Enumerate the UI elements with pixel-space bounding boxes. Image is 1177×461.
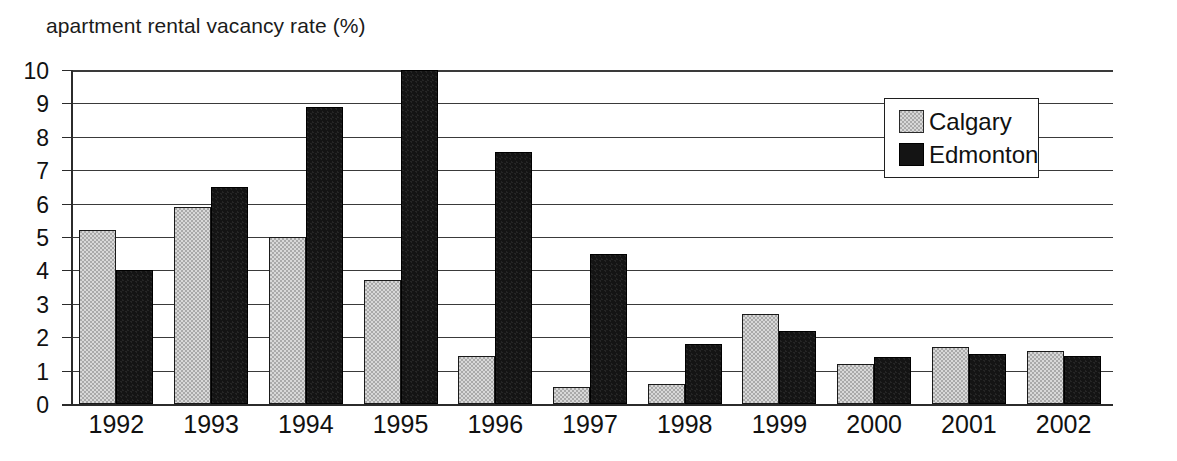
bar-calgary-1999 — [742, 314, 779, 404]
y-tick-label-0: 0 — [36, 394, 49, 417]
bar-calgary-2002 — [1027, 351, 1064, 404]
edmonton-swatch-icon — [899, 143, 924, 166]
bar-edmonton-1999 — [779, 331, 816, 404]
y-tick-label-5: 5 — [36, 227, 49, 250]
x-tick-label-1992: 1992 — [89, 412, 145, 437]
bar-edmonton-1995 — [401, 70, 438, 404]
bar-calgary-1997 — [553, 387, 590, 404]
x-tick-label-1996: 1996 — [467, 412, 523, 437]
y-tick-3: 3 — [62, 304, 71, 305]
vacancy-rate-bar-chart: apartment rental vacancy rate (%) 012345… — [0, 0, 1177, 461]
y-tick-label-8: 8 — [36, 126, 49, 149]
legend-label-edmonton: Edmonton — [929, 143, 1038, 167]
y-tick-label-9: 9 — [36, 93, 49, 116]
bar-calgary-1995 — [364, 280, 401, 404]
y-tick-label-4: 4 — [36, 260, 49, 283]
x-tick-label-1994: 1994 — [278, 412, 334, 437]
bar-edmonton-1992 — [116, 270, 153, 404]
bar-calgary-1996 — [458, 356, 495, 404]
bar-edmonton-1996 — [495, 152, 532, 404]
bar-calgary-1998 — [648, 384, 685, 404]
legend-entry-calgary: Calgary — [899, 105, 1038, 138]
x-tick-label-1997: 1997 — [562, 412, 618, 437]
x-tick-label-1998: 1998 — [657, 412, 713, 437]
x-tick-label-2001: 2001 — [941, 412, 997, 437]
y-tick-10: 10 — [62, 70, 71, 71]
bar-edmonton-1998 — [685, 344, 722, 404]
chart-legend: Calgary Edmonton — [884, 98, 1039, 178]
bar-calgary-1994 — [269, 237, 306, 404]
y-tick-6: 6 — [62, 204, 71, 205]
y-axis-line — [71, 70, 73, 404]
bar-calgary-2000 — [837, 364, 874, 404]
x-tick-label-2002: 2002 — [1036, 412, 1092, 437]
y-tick-label-6: 6 — [36, 193, 49, 216]
x-axis-line — [62, 404, 1113, 406]
y-tick-1: 1 — [62, 371, 71, 372]
bar-edmonton-2001 — [969, 354, 1006, 404]
x-tick-label-1993: 1993 — [183, 412, 239, 437]
y-tick-2: 2 — [62, 337, 71, 338]
y-tick-8: 8 — [62, 137, 71, 138]
bar-edmonton-1997 — [590, 254, 627, 404]
x-tick-label-1995: 1995 — [373, 412, 429, 437]
bar-edmonton-1993 — [211, 187, 248, 404]
y-tick-label-7: 7 — [36, 160, 49, 183]
legend-entry-edmonton: Edmonton — [899, 138, 1038, 171]
calgary-swatch-icon — [899, 110, 924, 133]
y-tick-label-10: 10 — [23, 60, 49, 83]
bar-edmonton-2002 — [1064, 356, 1101, 404]
bar-calgary-1992 — [79, 230, 116, 404]
x-tick-label-2000: 2000 — [846, 412, 902, 437]
y-tick-label-3: 3 — [36, 293, 49, 316]
y-tick-5: 5 — [62, 237, 71, 238]
bar-edmonton-1994 — [306, 107, 343, 404]
bar-calgary-2001 — [932, 347, 969, 404]
y-tick-label-1: 1 — [36, 360, 49, 383]
legend-label-calgary: Calgary — [929, 110, 1012, 134]
y-tick-4: 4 — [62, 270, 71, 271]
y-tick-7: 7 — [62, 170, 71, 171]
y-tick-label-2: 2 — [36, 327, 49, 350]
gridline-10 — [71, 70, 1113, 72]
x-tick-label-1999: 1999 — [752, 412, 808, 437]
bar-calgary-1993 — [174, 207, 211, 404]
chart-title: apartment rental vacancy rate (%) — [46, 14, 366, 38]
bar-edmonton-2000 — [874, 357, 911, 404]
y-tick-9: 9 — [62, 103, 71, 104]
